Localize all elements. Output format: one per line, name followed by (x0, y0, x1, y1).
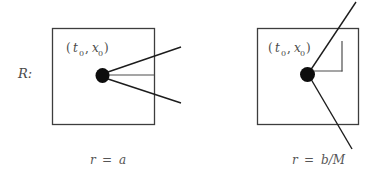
panel-left-caption: r = a (90, 153, 126, 167)
panel-right-label-comma: , (287, 41, 291, 55)
panel-left-caption-variable: r (90, 153, 97, 167)
panel-left-caption-value: a (119, 153, 126, 167)
panel-left-label-t: t (73, 41, 78, 55)
panel-right-label-close-paren: ) (306, 41, 311, 55)
panel-right-caption-value: b/M (321, 153, 346, 167)
panel-left-label-t-subscript: 0 (79, 49, 84, 58)
panel-left-label-open-paren: ( (66, 41, 71, 55)
panel-left: ( t 0 , x 0 ) r = a (53, 29, 182, 168)
panel-right-label-open-paren: ( (268, 41, 273, 55)
panel-right-event-dot (300, 67, 315, 82)
panel-right-label-x-subscript: 0 (300, 49, 305, 58)
spacetime-diagram-svg: R: ( t 0 , x 0 ) r (0, 0, 385, 178)
panel-left-label-close-paren: ) (104, 41, 109, 55)
panel-left-ray-lower (105, 78, 181, 103)
panel-right-caption: r = b/M (292, 153, 346, 167)
panel-left-event-dot (96, 68, 110, 83)
panel-right-event-label: ( t 0 , x 0 ) (268, 41, 311, 58)
row-label: R: (17, 66, 32, 81)
panel-right: ( t 0 , x 0 ) r = b/M (258, 2, 359, 167)
panel-left-event-label: ( t 0 , x 0 ) (66, 41, 109, 58)
panel-left-label-comma: , (85, 41, 89, 55)
panel-right-line-upper-branch (308, 2, 356, 74)
figure-container: R: ( t 0 , x 0 ) r (0, 0, 385, 178)
panel-left-caption-equals: = (102, 153, 112, 167)
panel-left-label-x-subscript: 0 (98, 49, 103, 58)
panel-right-caption-variable: r (292, 153, 299, 167)
panel-left-ray-upper (105, 47, 181, 73)
panel-right-label-t-subscript: 0 (281, 49, 286, 58)
panel-right-line-lower-branch (308, 74, 352, 149)
panel-right-label-t: t (275, 41, 280, 55)
panel-right-caption-equals: = (304, 153, 314, 167)
